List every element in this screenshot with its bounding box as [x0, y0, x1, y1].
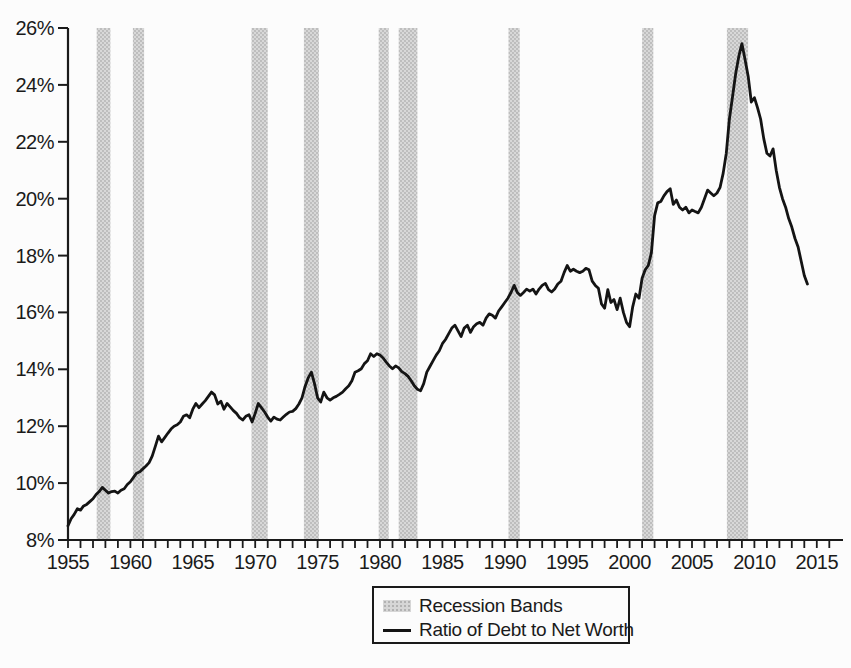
x-tick-label: 1955: [47, 551, 90, 573]
y-tick-label: 12%: [15, 415, 54, 437]
y-axis-ticks: [58, 28, 68, 540]
x-tick-label: 1980: [359, 551, 402, 573]
x-tick-label: 2000: [608, 551, 651, 573]
recession-band: [133, 28, 144, 540]
debt-ratio-line: [68, 44, 807, 526]
debt-ratio-series: [68, 44, 807, 526]
x-tick-label: 1960: [109, 551, 152, 573]
recession-band: [399, 28, 418, 540]
x-axis-labels: 1955196019651970197519801985199019952000…: [47, 551, 839, 573]
axes: [68, 28, 843, 540]
legend-item-debt-ratio: Ratio of Debt to Net Worth: [383, 618, 628, 642]
x-tick-label: 2005: [671, 551, 714, 573]
recession-band: [97, 28, 111, 540]
y-tick-label: 20%: [15, 188, 54, 210]
x-tick-label: 1995: [546, 551, 589, 573]
legend-label-recession-bands: Recession Bands: [419, 595, 562, 617]
y-tick-label: 8%: [26, 529, 55, 551]
x-tick-label: 1985: [421, 551, 464, 573]
legend-item-recession-bands: Recession Bands: [383, 594, 628, 618]
y-tick-label: 10%: [15, 472, 54, 494]
recession-band: [642, 28, 653, 540]
x-tick-label: 1975: [296, 551, 339, 573]
legend: Recession Bands Ratio of Debt to Net Wor…: [372, 586, 630, 644]
y-tick-label: 22%: [15, 131, 54, 153]
y-tick-label: 14%: [15, 358, 54, 380]
y-tick-label: 24%: [15, 74, 54, 96]
recession-band: [252, 28, 268, 540]
y-tick-label: 18%: [15, 245, 54, 267]
debt-ratio-chart-svg: 1955196019651970197519801985199019952000…: [0, 0, 851, 668]
chart: 1955196019651970197519801985199019952000…: [0, 0, 851, 668]
x-tick-label: 1990: [484, 551, 527, 573]
recession-band: [509, 28, 520, 540]
y-tick-label: 26%: [15, 17, 54, 39]
x-tick-label: 1965: [172, 551, 215, 573]
recession-band: [304, 28, 319, 540]
x-axis-ticks: [68, 540, 829, 548]
line-swatch: [383, 629, 411, 632]
y-tick-label: 16%: [15, 301, 54, 323]
axis-lines: [68, 28, 843, 540]
recession-bands: [97, 28, 748, 540]
recession-band-swatch: [383, 600, 411, 612]
recession-band: [379, 28, 389, 540]
y-axis-labels: 8%10%12%14%16%18%20%22%24%26%: [15, 17, 54, 551]
x-tick-label: 1970: [234, 551, 277, 573]
x-tick-label: 2010: [733, 551, 776, 573]
x-tick-label: 2015: [796, 551, 839, 573]
legend-label-debt-ratio: Ratio of Debt to Net Worth: [419, 619, 634, 641]
